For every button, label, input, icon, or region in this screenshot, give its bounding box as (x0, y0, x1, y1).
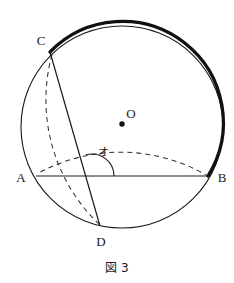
angle-label-o: オ (98, 147, 109, 158)
geometry-canvas (0, 0, 234, 283)
vertex-label-A: A (16, 171, 25, 184)
vertex-label-C: C (37, 34, 46, 47)
figure-caption: 図 3 (0, 262, 234, 274)
vertex-label-D: D (96, 235, 105, 248)
figure-container: A B C D O オ 図 3 (0, 0, 234, 283)
dashed-arc-center-A (41, 152, 209, 176)
vertex-label-O: O (126, 107, 135, 120)
chord-C-D (50, 52, 100, 226)
center-point-dot (119, 121, 124, 126)
vertex-label-B: B (218, 171, 227, 184)
